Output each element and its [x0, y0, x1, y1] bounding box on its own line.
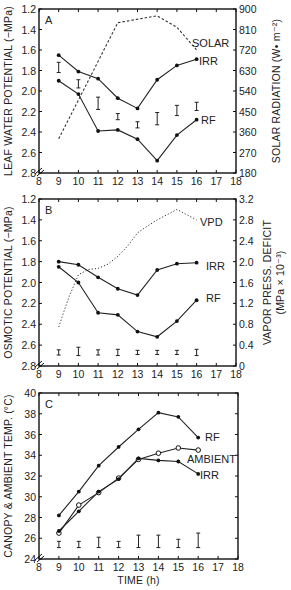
series-line-vpd [59, 209, 197, 327]
figure: 891011121314151617181.21.41.61.82.02.22.… [0, 0, 291, 590]
error-bar [175, 350, 179, 354]
y2-tick-label: 810 [239, 24, 257, 36]
x-tick-label: 9 [56, 561, 62, 573]
error-bar [156, 535, 160, 547]
data-point-irr [136, 107, 140, 111]
y2-tick-label: 0.4 [239, 339, 254, 351]
y-tick-label: 36 [24, 429, 36, 441]
data-point-rf [57, 79, 61, 83]
error-bar [196, 533, 200, 548]
data-point-rf [97, 464, 101, 468]
error-bar [136, 122, 140, 128]
y-tick-label: 2.0 [21, 85, 36, 97]
x-tick-label: 10 [73, 175, 85, 187]
x-tick-label: 13 [132, 175, 144, 187]
x-tick-label: 18 [232, 561, 244, 573]
error-bar [77, 541, 81, 547]
error-bar [136, 350, 140, 354]
y2-tick-label: 180 [239, 167, 257, 179]
x-tick-label: 11 [93, 175, 104, 187]
y-tick-label: 2.4 [21, 318, 36, 330]
data-point-rf [116, 313, 120, 317]
data-point-irr [136, 293, 140, 297]
y2-tick-label: 2.4 [239, 235, 254, 247]
y2-tick-label: 900 [239, 3, 257, 15]
series-label-vpd: VPD [200, 216, 223, 228]
series-line-irr [59, 262, 197, 295]
data-point-rf [175, 319, 179, 323]
x-tick-label: 15 [171, 175, 183, 187]
data-point-irr [155, 78, 159, 82]
plot-frame [39, 9, 236, 173]
data-point-rf [137, 427, 141, 431]
data-point-rf [195, 298, 199, 302]
x-tick-label: 13 [132, 368, 144, 380]
y-tick-label: 1.2 [21, 193, 36, 205]
data-point-rf [116, 128, 120, 132]
y2-tick-label: 2.8 [239, 214, 254, 226]
x-tick-label: 10 [73, 368, 85, 380]
data-point-irr [117, 477, 121, 481]
data-point-rf [96, 129, 100, 133]
y-tick-label: 1.4 [21, 214, 36, 226]
error-bar [57, 541, 61, 547]
data-point-rf [175, 133, 179, 137]
series-line-solar [59, 16, 197, 139]
panel-C: 89101112131415161718403836343230282624CC… [2, 387, 244, 586]
series-line-rf [59, 267, 197, 337]
y-tick-label: 2.8 [21, 167, 36, 179]
error-bar [96, 350, 100, 355]
x-tick-label: 14 [151, 175, 163, 187]
error-bar [97, 537, 101, 547]
x-tick-label: 8 [36, 368, 42, 380]
panel-A: 891011121314151617181.21.41.61.82.02.22.… [2, 3, 282, 187]
data-point-irr [116, 96, 120, 100]
data-point-irr [96, 77, 100, 81]
x-tick-label: 12 [112, 175, 124, 187]
data-point-irr [176, 460, 180, 464]
x-axis-label: TIME (h) [117, 574, 159, 586]
y2-axis-label: SOLAR RADIATION (W• m⁻²) [270, 19, 282, 163]
x-tick-label: 16 [191, 175, 203, 187]
x-tick-label: 15 [171, 368, 183, 380]
x-tick-label: 12 [112, 368, 124, 380]
x-tick-label: 17 [210, 368, 222, 380]
panel-letter: C [45, 398, 53, 410]
y2-tick-label: 0 [239, 360, 245, 372]
data-point-irr [77, 263, 81, 267]
data-point-rf [176, 415, 180, 419]
error-bar [176, 539, 180, 547]
y-tick-label: 1.4 [21, 24, 36, 36]
series-label-rf: RF [206, 292, 221, 304]
y2-tick-label: 630 [239, 65, 257, 77]
error-bar [96, 97, 100, 109]
data-point-irr [155, 268, 159, 272]
y2-tick-label: 360 [239, 126, 257, 138]
error-bar [155, 350, 159, 354]
series-label-irr: IRR [199, 55, 218, 67]
data-point-irr [97, 490, 101, 494]
series-line-rf [59, 413, 198, 516]
data-point-irr [195, 261, 199, 265]
data-point-rf [57, 514, 61, 518]
y-tick-label: 24 [24, 553, 36, 565]
series-label-rf: RF [205, 431, 220, 443]
y-tick-label: 1.6 [21, 44, 36, 56]
panel-B: 891011121314151617181.21.41.61.82.02.22.… [2, 193, 286, 380]
y-tick-label: 1.8 [21, 256, 36, 268]
y2-tick-label: 3.2 [239, 193, 254, 205]
y-tick-label: 2.4 [21, 126, 36, 138]
panel-letter: B [45, 204, 52, 216]
y2-tick-label: 270 [239, 147, 257, 159]
error-bar [117, 541, 121, 547]
x-tick-label: 17 [212, 561, 224, 573]
data-point-ambient [196, 448, 201, 453]
series-label-irr: IRR [206, 260, 225, 272]
y-tick-label: 2.2 [21, 106, 36, 118]
y-tick-label: 34 [24, 449, 36, 461]
data-point-rf [136, 330, 140, 334]
x-tick-label: 17 [210, 175, 222, 187]
error-bar [155, 113, 159, 125]
y-tick-label: 2.8 [21, 360, 36, 372]
data-point-irr [57, 529, 61, 533]
